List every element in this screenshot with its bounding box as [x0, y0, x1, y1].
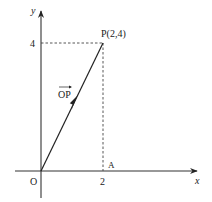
x-tick-label: 2 — [100, 176, 105, 187]
y-axis-label: y — [30, 5, 36, 16]
vector-op-label: OP — [58, 89, 71, 100]
x-axis-label: x — [194, 175, 200, 186]
vector-op-line — [41, 43, 103, 171]
y-tick-label: 4 — [30, 38, 35, 49]
coordinate-diagram: y x O 4 2 P(2,4) A OP — [0, 0, 212, 202]
point-a-label: A — [108, 160, 115, 170]
origin-label: O — [30, 176, 37, 187]
point-p-label: P(2,4) — [101, 28, 126, 40]
